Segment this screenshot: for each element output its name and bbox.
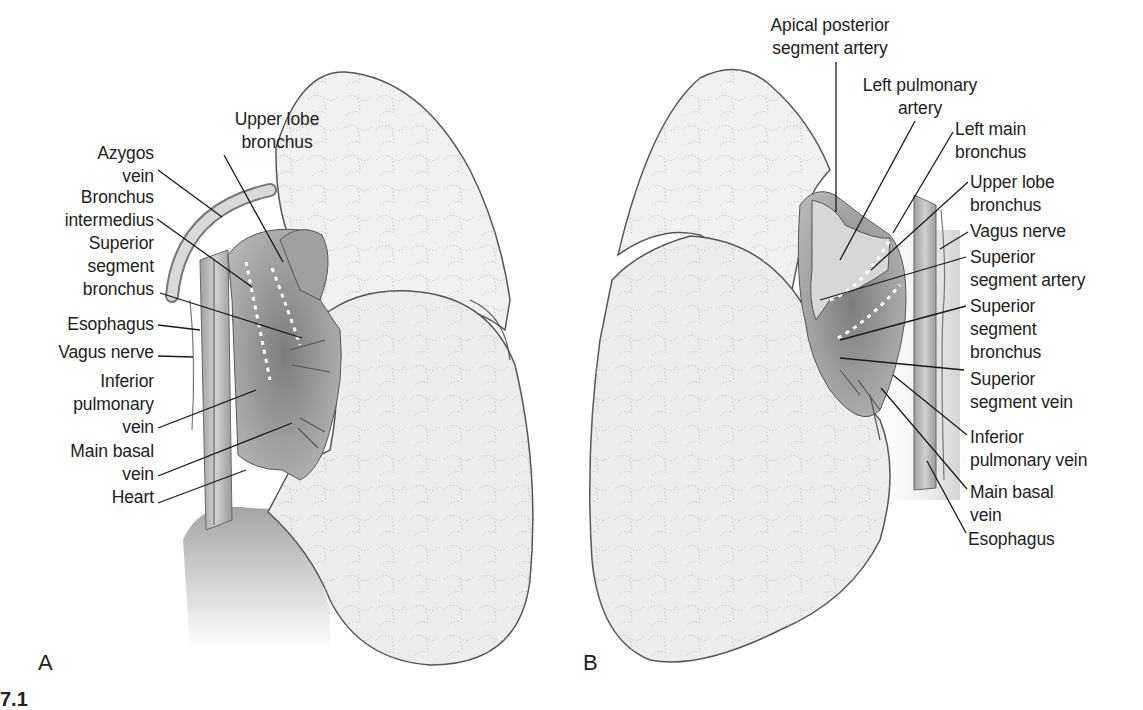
label-left-main-bronchus: Left main bronchus: [955, 118, 1075, 164]
label-superior-segment-artery: Superior segment artery: [970, 246, 1110, 292]
label-superior-segment-vein: Superior segment vein: [970, 368, 1100, 414]
label-inferior-pulmonary-vein: Inferior pulmonary vein: [970, 426, 1110, 472]
leader-line: [158, 356, 193, 357]
label-inferior-pulmonary-vein: Inferior pulmonary vein: [40, 370, 154, 439]
panel-b-illustration: [590, 69, 960, 662]
label-superior-segment-bronchus: Superior segment bronchus: [970, 295, 1090, 364]
label-vagus-nerve: Vagus nerve: [970, 220, 1100, 243]
leader-line: [158, 325, 200, 330]
panel-letter-a: A: [38, 650, 53, 676]
label-apical-posterior-segment-artery: Apical posterior segment artery: [760, 14, 900, 60]
label-heart: Heart: [60, 486, 154, 509]
leader-line: [158, 170, 222, 217]
label-vagus-nerve: Vagus nerve: [20, 341, 154, 364]
figure-number-fragment: 7.1: [0, 688, 28, 710]
label-esophagus: Esophagus: [30, 313, 154, 336]
label-main-basal-vein: Main basal vein: [40, 440, 154, 486]
panel-a-illustration: [172, 72, 533, 665]
label-esophagus: Esophagus: [968, 528, 1088, 551]
label-superior-segment-bronchus: Superior segment bronchus: [40, 232, 154, 301]
label-upper-lobe-bronchus: Upper lobe bronchus: [222, 108, 332, 154]
label-upper-lobe-bronchus: Upper lobe bronchus: [970, 171, 1100, 217]
label-azygos-vein: Azygos vein: [50, 142, 154, 188]
label-bronchus-intermedius: Bronchus intermedius: [30, 186, 154, 232]
leader-line: [158, 470, 246, 503]
label-left-pulmonary-artery: Left pulmonary artery: [850, 74, 990, 120]
label-main-basal-vein: Main basal vein: [970, 481, 1090, 527]
panel-letter-b: B: [583, 650, 598, 676]
